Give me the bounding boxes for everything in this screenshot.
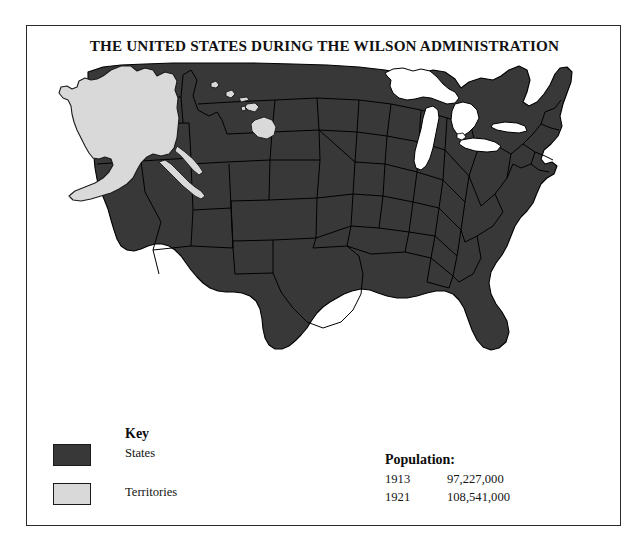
- population-year: 1913: [385, 471, 447, 489]
- legend-label-territories: Territories: [125, 485, 177, 500]
- map-legend: Key States Territories: [53, 440, 268, 512]
- population-block: Population: 1913 97,227,000 1921 108,541…: [385, 452, 585, 507]
- hawaii-island-lanai: [241, 106, 246, 111]
- map-figure: THE UNITED STATES DURING THE WILSON ADMI…: [0, 0, 636, 546]
- united-states-map: [41, 60, 607, 420]
- map-canvas: [41, 60, 607, 420]
- legend-heading: Key: [125, 426, 149, 442]
- population-year: 1921: [385, 489, 447, 507]
- page-title: THE UNITED STATES DURING THE WILSON ADMI…: [27, 37, 622, 55]
- population-value: 108,541,000: [447, 489, 510, 507]
- figure-frame: THE UNITED STATES DURING THE WILSON ADMI…: [26, 25, 621, 526]
- population-row: 1913 97,227,000: [385, 471, 585, 489]
- population-heading: Population:: [385, 452, 585, 468]
- population-value: 97,227,000: [447, 471, 504, 489]
- legend-swatch-states: [53, 444, 91, 466]
- legend-swatch-territories: [53, 483, 91, 505]
- population-row: 1921 108,541,000: [385, 489, 585, 507]
- legend-label-states: States: [125, 446, 155, 461]
